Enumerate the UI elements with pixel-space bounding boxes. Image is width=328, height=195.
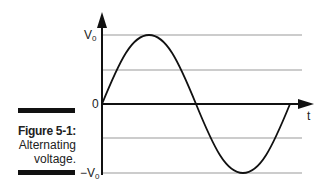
x-axis	[102, 99, 314, 109]
x-axis-arrow-icon	[298, 99, 314, 109]
y-axis-arrow-icon	[97, 12, 107, 28]
sine-wave-diagram: V0 0 −V0 t	[0, 0, 328, 195]
v0-label: V0	[84, 28, 97, 43]
t-axis-label: t	[307, 109, 311, 123]
zero-label: 0	[92, 97, 99, 111]
neg-v0-label: −V0	[80, 166, 100, 181]
